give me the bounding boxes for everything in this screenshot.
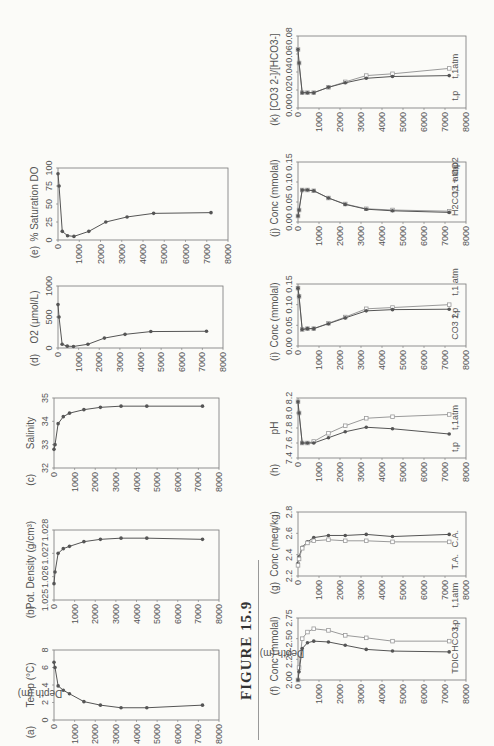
- value-axis-label: [CO3 2-]/[HCO3-]: [269, 33, 280, 110]
- panel-tag: (j): [269, 228, 280, 237]
- depth-tick-label: 8000: [214, 472, 224, 492]
- series-line: [54, 662, 203, 708]
- value-tick-label: 6: [40, 665, 50, 670]
- panel-tag: (d): [29, 354, 40, 366]
- series-annotation: t,1atm: [450, 583, 460, 608]
- panel-tag: (k): [269, 114, 280, 126]
- depth-tick-label: 5000: [152, 472, 162, 492]
- value-tick-label: 50: [44, 199, 54, 209]
- value-tick-label: 32: [40, 463, 50, 473]
- value-tick-label: 8: [40, 647, 50, 652]
- depth-tick-label: 5000: [152, 604, 162, 624]
- panel-e: 0100020003000400050006000700080000255075…: [29, 160, 233, 264]
- depth-tick-label: 5000: [398, 226, 408, 246]
- depth-tick-label: 1000: [74, 352, 84, 372]
- figure-page: 01000200030004000500060007000800002468Te…: [0, 0, 494, 746]
- depth-tick-label: 0: [293, 112, 303, 117]
- value-tick-label: 1.026: [40, 565, 50, 588]
- value-tick-label: 34: [40, 416, 50, 426]
- value-tick-label: 8.0: [284, 407, 294, 420]
- panel-g: 0100020003000400050006000700080002.22.42…: [269, 506, 471, 600]
- depth-tick-label: 2000: [335, 684, 345, 704]
- value-tick-label: 0.00: [284, 99, 294, 117]
- depth-tick-label: 7000: [440, 684, 450, 704]
- depth-tick-label: 8000: [223, 244, 233, 264]
- value-tick-label: 0.06: [284, 45, 294, 63]
- depth-tick-label: 4000: [132, 604, 142, 624]
- value-tick-label: 4: [40, 682, 50, 687]
- series-annotation: t,p: [450, 308, 460, 318]
- value-tick-label: 0.10: [284, 173, 294, 191]
- depth-tick-label: 0: [49, 604, 59, 609]
- depth-tick-label: 6000: [419, 112, 429, 132]
- depth-tick-label: 7000: [440, 350, 450, 370]
- value-tick-label: 0: [44, 345, 54, 350]
- depth-tick-label: 4000: [377, 684, 387, 704]
- depth-tick-label: 7000: [193, 472, 203, 492]
- value-tick-label: 7.6: [284, 437, 294, 450]
- series-line: [298, 540, 449, 566]
- depth-tick-label: 6000: [173, 472, 183, 492]
- value-tick-label: 0.10: [284, 296, 294, 314]
- panel-tag: (a): [25, 726, 36, 738]
- depth-tick-label: 7000: [440, 112, 450, 132]
- series-annotation: t,1atm: [450, 405, 460, 430]
- value-tick-label: 1.028: [40, 519, 50, 542]
- depth-tick-label: 0: [293, 580, 303, 585]
- caption-rule: [258, 560, 259, 740]
- depth-tick-label: 6000: [177, 352, 187, 372]
- value-tick-label: 2.8: [284, 506, 294, 519]
- series-annotation: t,p: [450, 620, 460, 630]
- panel-tag: (e): [29, 246, 40, 258]
- depth-tick-label: 7000: [440, 226, 450, 246]
- depth-tick-label: 0: [293, 684, 303, 689]
- series-line: [58, 305, 207, 347]
- value-axis-label: Conc (mmolal): [269, 282, 280, 347]
- depth-tick-label: 5000: [398, 684, 408, 704]
- depth-tick-label: 1000: [70, 604, 80, 624]
- value-tick-label: 0.04: [284, 63, 294, 81]
- value-tick-label: 7.4: [284, 452, 294, 465]
- panel-tag: (h): [269, 464, 280, 476]
- value-tick-label: 0.00: [284, 337, 294, 355]
- series-line: [298, 534, 449, 563]
- depth-tick-label: 1000: [314, 226, 324, 246]
- depth-tick-label: 2000: [96, 244, 106, 264]
- depth-tick-label: 3000: [115, 352, 125, 372]
- value-tick-label: 1.025: [40, 589, 50, 612]
- panel-tag: (g): [269, 582, 280, 594]
- value-tick-label: 35: [40, 393, 50, 403]
- depth-tick-label: 7000: [440, 462, 450, 482]
- depth-tick-label: 6000: [419, 350, 429, 370]
- value-tick-label: 0.08: [284, 27, 294, 45]
- depth-axis-label: Depth (m): [260, 648, 304, 659]
- depth-tick-label: 4000: [136, 352, 146, 372]
- depth-tick-label: 5000: [398, 112, 408, 132]
- depth-tick-label: 8000: [461, 580, 471, 600]
- depth-tick-label: 7000: [193, 604, 203, 624]
- value-tick-label: 8.2: [284, 392, 294, 405]
- series-line: [298, 402, 449, 443]
- depth-tick-label: 4000: [377, 226, 387, 246]
- depth-tick-label: 5000: [159, 244, 169, 264]
- panel-tag: (c): [25, 474, 36, 486]
- value-axis-label: Pot. Density (g/cm³): [25, 521, 36, 609]
- depth-tick-label: 7000: [193, 724, 203, 744]
- depth-tick-label: 5000: [398, 462, 408, 482]
- depth-tick-label: 6000: [173, 604, 183, 624]
- value-tick-label: 7.8: [284, 422, 294, 435]
- depth-tick-label: 8000: [461, 462, 471, 482]
- depth-tick-label: 3000: [356, 580, 366, 600]
- depth-tick-label: 4000: [138, 244, 148, 264]
- series-line: [298, 288, 449, 329]
- value-axis-label: O2 (µmol/L): [29, 291, 40, 344]
- depth-tick-label: 6000: [419, 226, 429, 246]
- depth-tick-label: 6000: [419, 684, 429, 704]
- panel-tag: (b): [25, 606, 36, 618]
- value-axis-label: % Saturation DO: [29, 166, 40, 241]
- series-line: [298, 50, 449, 93]
- depth-tick-label: 2000: [90, 604, 100, 624]
- depth-tick-label: 2000: [335, 580, 345, 600]
- value-axis-label: Temp (°C): [25, 662, 36, 707]
- depth-tick-label: 0: [293, 350, 303, 355]
